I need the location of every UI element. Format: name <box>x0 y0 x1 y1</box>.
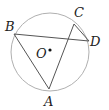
segment-ac <box>49 24 74 89</box>
label-b: B <box>4 19 15 34</box>
label-o: O <box>36 46 47 61</box>
circle <box>11 13 89 91</box>
center-dot <box>48 48 51 51</box>
label-a: A <box>43 94 53 109</box>
label-c: C <box>74 5 84 20</box>
segment-bd <box>14 34 89 41</box>
segment-cd <box>74 24 89 41</box>
circle-diagram: B C D A O <box>0 0 109 110</box>
segment-ab <box>14 34 49 89</box>
label-d: D <box>89 34 101 49</box>
